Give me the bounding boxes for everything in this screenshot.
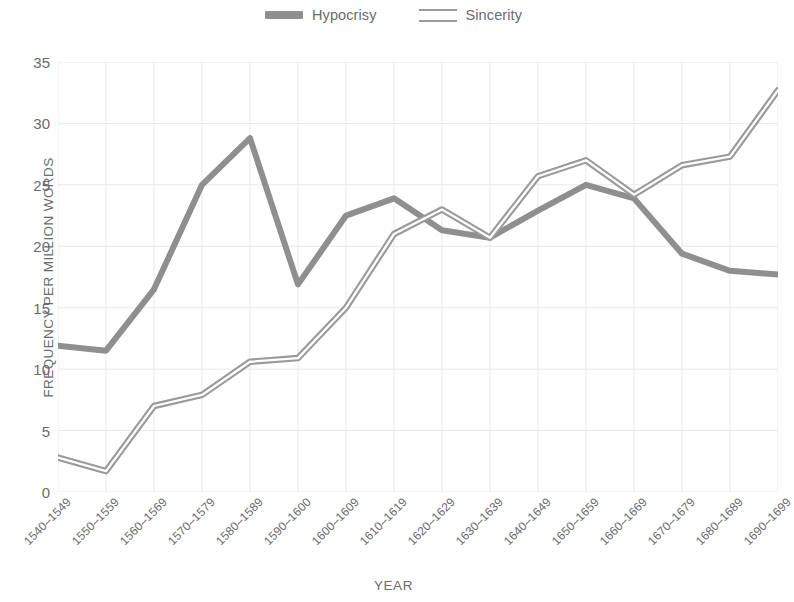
x-tick-label: 1680–1689 bbox=[692, 495, 746, 549]
x-tick-label: 1690–1699 bbox=[740, 495, 794, 549]
x-tick-label: 1540–1549 bbox=[20, 495, 74, 549]
x-tick-label: 1630–1639 bbox=[452, 495, 506, 549]
x-tick-label: 1650–1659 bbox=[548, 495, 602, 549]
y-axis-tick-labels: 05101520253035 bbox=[0, 62, 50, 492]
x-tick-label: 1580–1589 bbox=[212, 495, 266, 549]
x-tick-label: 1590–1600 bbox=[260, 495, 314, 549]
chart-canvas bbox=[58, 62, 778, 492]
grid-lines bbox=[58, 62, 778, 492]
x-tick-label: 1570–1579 bbox=[164, 495, 218, 549]
x-tick-label: 1640–1649 bbox=[500, 495, 554, 549]
plot-area bbox=[58, 62, 778, 492]
y-tick-label: 5 bbox=[6, 422, 50, 439]
legend-label-sincerity: Sincerity bbox=[466, 7, 523, 23]
y-tick-label: 0 bbox=[6, 484, 50, 501]
y-tick-label: 30 bbox=[6, 115, 50, 132]
series-sincerity bbox=[58, 90, 778, 471]
y-tick-label: 35 bbox=[6, 54, 50, 71]
x-axis-title: YEAR bbox=[0, 578, 787, 593]
y-tick-label: 15 bbox=[6, 299, 50, 316]
y-tick-label: 25 bbox=[6, 176, 50, 193]
x-axis-tick-labels: 1540–15491550–15591560–15691570–15791580… bbox=[58, 495, 778, 575]
x-tick-label: 1610–1619 bbox=[356, 495, 410, 549]
y-tick-label: 10 bbox=[6, 361, 50, 378]
x-tick-label: 1560–1569 bbox=[116, 495, 170, 549]
x-tick-label: 1670–1679 bbox=[644, 495, 698, 549]
legend-item-hypocrisy[interactable]: Hypocrisy bbox=[265, 7, 377, 23]
hollow-line-swatch-icon bbox=[419, 9, 457, 22]
x-tick-label: 1660–1669 bbox=[596, 495, 650, 549]
legend-item-sincerity[interactable]: Sincerity bbox=[419, 7, 523, 23]
solid-line-swatch-icon bbox=[265, 11, 303, 19]
x-tick-label: 1550–1559 bbox=[68, 495, 122, 549]
x-tick-label: 1600–1609 bbox=[308, 495, 362, 549]
chart-legend: Hypocrisy Sincerity bbox=[0, 2, 787, 28]
legend-label-hypocrisy: Hypocrisy bbox=[312, 7, 377, 23]
y-tick-label: 20 bbox=[6, 238, 50, 255]
x-tick-label: 1620–1629 bbox=[404, 495, 458, 549]
